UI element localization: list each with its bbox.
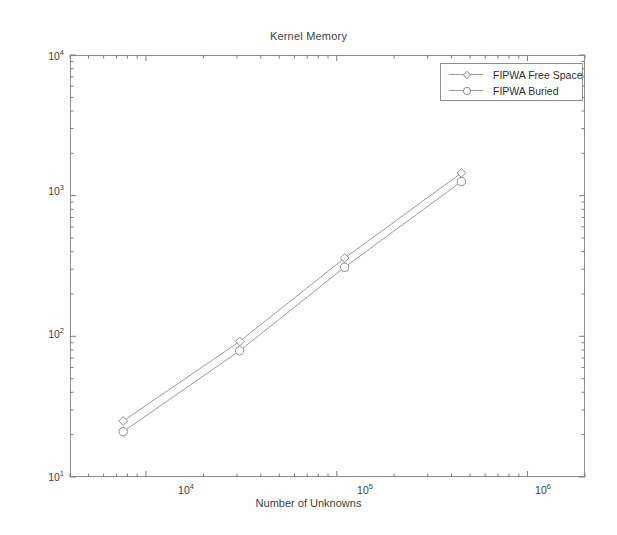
- circle-marker-icon: [447, 84, 487, 98]
- chart-title: Kernel Memory: [0, 30, 617, 42]
- plot-axes-frame: [70, 55, 585, 477]
- legend-item-buried: FIPWA Buried: [441, 83, 582, 99]
- x-tick-label-1e4: 104: [166, 482, 206, 496]
- diamond-marker-icon: [447, 68, 487, 82]
- y-tick-label-2: 102: [28, 326, 64, 340]
- legend-label-buried: FIPWA Buried: [493, 85, 559, 97]
- y-tick-label-1: 101: [28, 469, 64, 483]
- x-axis-label: Number of Unknowns: [0, 497, 617, 509]
- x-tick-label-1e5: 105: [345, 482, 385, 496]
- figure-canvas: Kernel Memory 104 103 102 101 104 105 10…: [0, 0, 617, 535]
- legend-item-free-space: FIPWA Free Space: [441, 67, 582, 83]
- legend-label-free-space: FIPWA Free Space: [493, 69, 582, 81]
- x-tick-label-1e6: 106: [523, 482, 563, 496]
- y-tick-label-3: 103: [28, 183, 64, 197]
- y-tick-label-4: 104: [28, 48, 64, 62]
- chart-legend: FIPWA Free Space FIPWA Buried: [440, 63, 583, 101]
